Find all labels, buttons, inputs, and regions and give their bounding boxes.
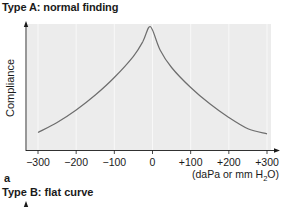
type-b-axis-stub <box>0 0 282 207</box>
type-b-y-axis-arrow-icon <box>24 201 28 207</box>
